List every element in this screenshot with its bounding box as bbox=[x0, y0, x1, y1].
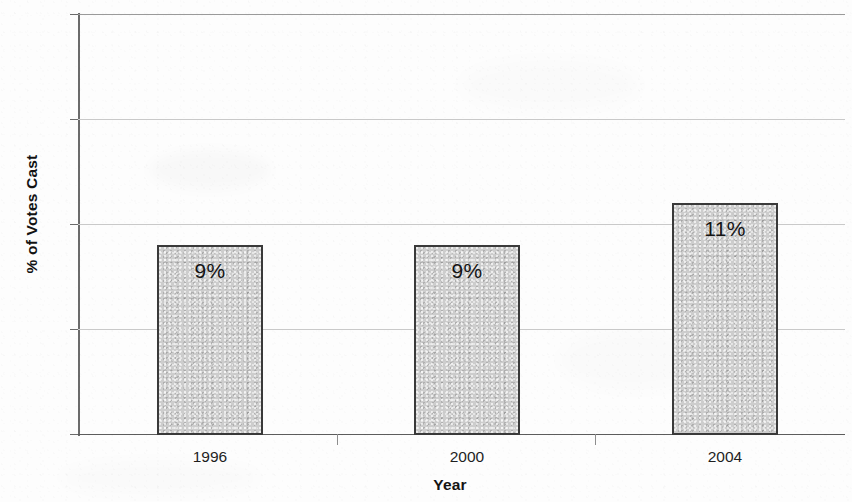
y-axis-tick bbox=[70, 434, 78, 435]
gridline-15 bbox=[78, 119, 845, 120]
x-axis-separator-tick bbox=[595, 434, 596, 445]
y-axis-tick bbox=[70, 329, 78, 330]
bar-value-label: 11% bbox=[674, 217, 776, 241]
bar-chart: % of Votes Cast 20% 15% 10% 5% 0% 9% 9% … bbox=[0, 0, 852, 502]
x-axis-tick-label-2004: 2004 bbox=[672, 448, 778, 466]
bar-value-label: 9% bbox=[416, 259, 518, 283]
x-axis-tick-label-1996: 1996 bbox=[157, 448, 263, 466]
bar-2004[interactable]: 11% bbox=[672, 203, 778, 435]
gridline-20 bbox=[78, 14, 845, 15]
x-axis-title-text: Year bbox=[433, 476, 467, 494]
y-axis-title: % of Votes Cast bbox=[23, 64, 41, 364]
x-axis-tick-label-2000: 2000 bbox=[414, 448, 520, 466]
y-axis-tick bbox=[70, 119, 78, 120]
bar-1996[interactable]: 9% bbox=[157, 245, 263, 435]
y-axis-tick bbox=[70, 224, 78, 225]
bar-2000[interactable]: 9% bbox=[414, 245, 520, 435]
plot-area: 9% 9% 11% bbox=[78, 14, 845, 434]
x-axis-title: Year bbox=[0, 476, 852, 494]
bar-value-label: 9% bbox=[159, 259, 261, 283]
x-axis-separator-tick bbox=[337, 434, 338, 445]
y-axis-tick bbox=[70, 14, 78, 15]
